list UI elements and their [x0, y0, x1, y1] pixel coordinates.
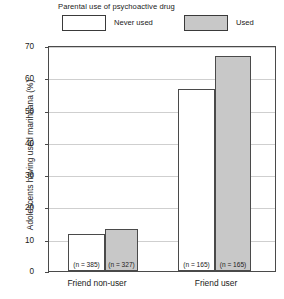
ytick-label-60: 60 — [12, 74, 34, 83]
legend-swatch-used-icon — [184, 15, 228, 31]
ytick-mark-50 — [45, 112, 49, 113]
legend-item-used: Used — [184, 15, 264, 32]
bar-n-label: (n = 385) — [69, 261, 104, 268]
x-label-friend-non-user: Friend non-user — [42, 278, 152, 288]
x-label-friend-user: Friend user — [166, 278, 266, 288]
gridline-70 — [49, 47, 275, 48]
bar-friend-non-user-used[interactable]: (n = 327) — [105, 229, 138, 271]
bar-n-label: (n = 165) — [179, 261, 214, 268]
ytick-mark-60 — [45, 79, 49, 80]
ytick-label-0: 0 — [12, 267, 34, 276]
plot-area: 70 60 50 40 30 20 10 0 (n = 385) (n = 32… — [48, 46, 276, 272]
bar-friend-non-user-never-used[interactable]: (n = 385) — [68, 234, 105, 271]
ytick-label-20: 20 — [12, 203, 34, 212]
ytick-label-30: 30 — [12, 171, 34, 180]
legend-title: Parental use of psychoactive drug — [58, 2, 175, 11]
bar-n-label: (n = 327) — [106, 261, 137, 268]
ytick-mark-20 — [45, 208, 49, 209]
ytick-mark-30 — [45, 176, 49, 177]
ytick-label-10: 10 — [12, 236, 34, 245]
chart-figure: Parental use of psychoactive drug Never … — [0, 0, 284, 299]
ytick-label-70: 70 — [12, 42, 34, 51]
bar-friend-user-used[interactable]: (n = 165) — [215, 56, 251, 271]
bar-friend-user-never-used[interactable]: (n = 165) — [178, 89, 215, 271]
chart-legend: Parental use of psychoactive drug Never … — [56, 2, 258, 38]
ytick-mark-40 — [45, 144, 49, 145]
ytick-mark-70 — [45, 47, 49, 48]
ytick-mark-0 — [45, 272, 49, 273]
legend-label-never-used: Never used — [114, 18, 153, 27]
bar-n-label: (n = 165) — [216, 261, 250, 268]
ytick-mark-10 — [45, 241, 49, 242]
ytick-label-50: 50 — [12, 107, 34, 116]
legend-swatch-never-used-icon — [62, 15, 106, 31]
legend-label-used: Used — [236, 18, 254, 27]
ytick-label-40: 40 — [12, 139, 34, 148]
legend-item-never-used: Never used — [62, 15, 172, 32]
